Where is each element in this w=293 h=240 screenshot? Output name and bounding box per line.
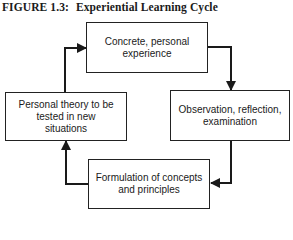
node-personal-theory: Personal theory to be tested in new situ…: [5, 92, 127, 141]
node-concrete-experience: Concrete, personal experience: [86, 22, 208, 73]
node-label: Personal theory to be tested in new situ…: [16, 99, 116, 135]
arrow-concrete-to-observation: [208, 47, 231, 90]
arrow-formulation-to-theory: [66, 141, 88, 184]
node-label: Concrete, personal experience: [100, 36, 195, 60]
node-observation-reflection: Observation, reflection, examination: [170, 90, 290, 141]
arrow-theory-to-concrete: [65, 48, 86, 92]
arrow-observation-to-formulation: [211, 140, 231, 183]
node-formulation-concepts: Formulation of concepts and principles: [88, 159, 210, 209]
node-label: Observation, reflection, examination: [175, 104, 285, 128]
node-label: Formulation of concepts and principles: [93, 172, 205, 196]
